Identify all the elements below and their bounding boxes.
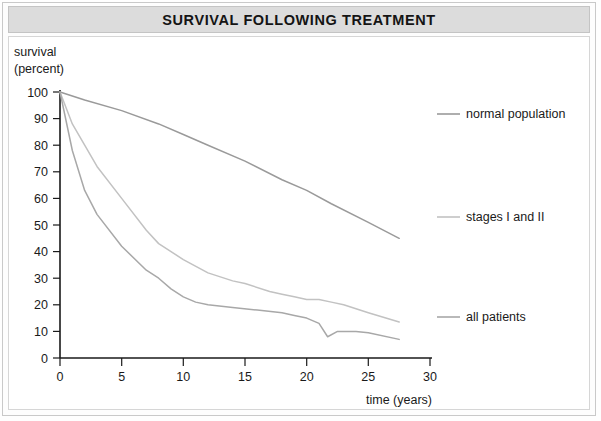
x-tick-label: 30 — [423, 370, 437, 384]
y-tick-label: 10 — [34, 325, 48, 339]
x-tick-label: 25 — [361, 370, 375, 384]
figure-root: SURVIVAL FOLLOWING TREATMENT survival (p… — [0, 0, 601, 421]
legend-label-stages-i-and-ii: stages I and II — [466, 210, 545, 224]
x-tick-group — [60, 358, 430, 366]
legend: normal population stages I and II all pa… — [437, 107, 565, 324]
y-tick-label: 20 — [34, 298, 48, 312]
x-axis-label: time (years) — [366, 393, 432, 407]
series-line-normal-population — [60, 92, 399, 238]
y-tick-label: 100 — [27, 86, 48, 100]
y-tick-label: 90 — [34, 112, 48, 126]
y-axis-label-line2: (percent) — [14, 62, 64, 76]
series-layer — [60, 92, 399, 339]
y-tick-label: 50 — [34, 219, 48, 233]
series-line-all-patients — [60, 92, 399, 339]
x-tick-label: 0 — [57, 370, 64, 384]
legend-label-normal-population: normal population — [466, 107, 565, 121]
y-tick-label: 0 — [41, 352, 48, 366]
x-tick-label: 15 — [238, 370, 252, 384]
y-tick-label: 40 — [34, 245, 48, 259]
y-tick-label: 30 — [34, 272, 48, 286]
y-axis-label-line1: survival — [14, 45, 56, 59]
x-tick-label: 20 — [300, 370, 314, 384]
y-tick-label: 60 — [34, 192, 48, 206]
y-tick-label: 70 — [34, 165, 48, 179]
y-tick-label: 80 — [34, 139, 48, 153]
series-line-stages-i-and-ii — [60, 92, 399, 322]
x-tick-label: 10 — [176, 370, 190, 384]
legend-label-all-patients: all patients — [466, 310, 526, 324]
survival-line-chart: survival (percent) 0 10 20 30 40 50 60 7… — [0, 0, 601, 421]
x-tick-label: 5 — [118, 370, 125, 384]
y-tick-group — [53, 92, 60, 358]
